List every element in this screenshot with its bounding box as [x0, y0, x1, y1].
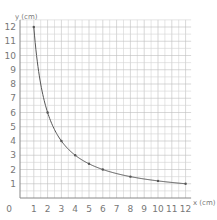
x-tick-label: 7: [114, 204, 120, 214]
x-tick-label: 12: [180, 204, 191, 214]
x-tick-label: 2: [45, 204, 51, 214]
data-point: [184, 183, 186, 185]
data-point: [157, 180, 159, 182]
y-tick-label: 5: [10, 122, 16, 132]
data-point: [46, 111, 48, 113]
tick-labels: 0123456789101112123456789101112: [5, 22, 192, 214]
y-tick-label: 4: [10, 136, 16, 146]
data-point: [74, 154, 76, 156]
y-tick-label: 9: [10, 65, 16, 75]
x-tick-label: 11: [166, 204, 177, 214]
y-tick-label: 2: [10, 165, 16, 175]
y-tick-label: 6: [10, 108, 16, 118]
y-tick-label: 1: [10, 179, 16, 189]
x-tick-label: 6: [100, 204, 106, 214]
y-tick-label: 7: [10, 93, 16, 103]
axes: [20, 20, 191, 198]
x-tick-label: 8: [128, 204, 134, 214]
x-axis-label: x (cm): [193, 199, 216, 207]
data-point: [60, 140, 62, 142]
x-tick-label: 3: [59, 204, 65, 214]
y-tick-label: 10: [5, 51, 17, 61]
x-tick-label: 9: [141, 204, 147, 214]
y-axis-label: y (cm): [15, 13, 38, 21]
x-tick-label: 5: [86, 204, 92, 214]
x-tick-label: 1: [31, 204, 37, 214]
y-tick-label: 3: [10, 150, 16, 160]
data-point: [129, 175, 131, 177]
chart: 0123456789101112123456789101112 y (cm) x…: [0, 0, 217, 220]
x-tick-label: 10: [152, 204, 164, 214]
y-tick-label: 12: [5, 22, 16, 32]
data-point: [102, 168, 104, 170]
x-tick-label: 4: [72, 204, 78, 214]
x-tick-label: 0: [6, 204, 12, 214]
y-tick-label: 8: [10, 79, 16, 89]
data-point: [33, 26, 35, 28]
grid: [20, 20, 191, 198]
data-point: [88, 163, 90, 165]
y-tick-label: 11: [5, 36, 16, 46]
